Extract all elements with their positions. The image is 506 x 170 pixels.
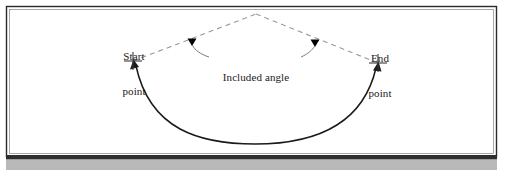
end-point-label: End point [350,30,410,122]
footer-gray-strip [6,159,497,170]
start-point-label-line2: point [104,86,164,98]
arc-included-angle-figure: Start point End point Included angle [0,0,506,170]
footer-dark-bar [6,155,497,159]
end-point-label-line1: End [350,53,410,65]
end-point-label-line2: point [350,88,410,100]
start-point-label-line1: Start [104,51,164,63]
included-angle-label-text: Included angle [200,72,312,84]
start-point-label: Start point [104,28,164,120]
included-angle-label: Included angle [200,49,312,107]
